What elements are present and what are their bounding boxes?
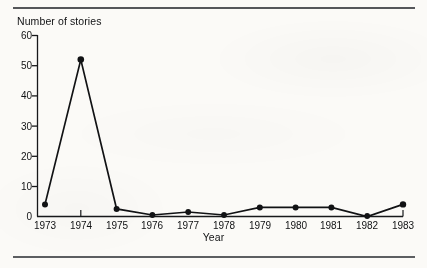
data-point-1975 bbox=[114, 206, 120, 212]
data-point-1982 bbox=[364, 213, 370, 219]
data-point-1977 bbox=[185, 209, 191, 215]
line-chart-plot bbox=[0, 0, 427, 268]
data-point-1978 bbox=[221, 212, 227, 218]
data-point-1980 bbox=[293, 204, 299, 210]
figure-container: Number of stories Year 60 50 40 30 20 10… bbox=[0, 0, 427, 268]
data-point-1981 bbox=[328, 204, 334, 210]
y-axis-ticks bbox=[32, 36, 38, 187]
data-line-series-1 bbox=[45, 60, 403, 217]
data-point-1973 bbox=[42, 201, 48, 207]
data-point-markers bbox=[42, 56, 406, 219]
data-point-1979 bbox=[257, 204, 263, 210]
data-point-1974 bbox=[78, 56, 85, 63]
data-point-1976 bbox=[150, 212, 156, 218]
data-point-1983 bbox=[400, 201, 406, 207]
